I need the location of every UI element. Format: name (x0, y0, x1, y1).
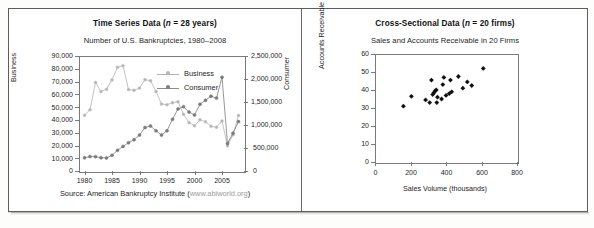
source-text: Source: American Bankruptcy Institute ( (60, 189, 190, 198)
xtick-1985: 1985 (101, 177, 124, 184)
ytick-0: 0 (350, 158, 369, 165)
ytick-20000: 20,000 (31, 142, 73, 149)
time-series-subtitle: Number of U.S. Bankruptcies, 1980–2008 (9, 36, 301, 45)
ytick-80000: 80,000 (31, 65, 73, 72)
y2tick-1500000: 1,500,000 (251, 98, 282, 105)
ytick-30: 30 (350, 104, 369, 111)
source-tail: ) (248, 189, 250, 198)
ytick-30000: 30,000 (31, 129, 73, 136)
ytick-50: 50 (350, 68, 369, 75)
xtick-0: 0 (365, 169, 386, 176)
xtick-2005: 2005 (211, 177, 234, 184)
panel-time-series: Time Series Data (n = 28 years) Number o… (9, 9, 301, 211)
ytick-50000: 50,000 (31, 104, 73, 111)
xtick-200: 200 (401, 169, 422, 176)
title-tail: = 20 firms) (470, 19, 515, 28)
legend-label-business: Business (184, 69, 214, 78)
ytick-90000: 90,000 (31, 52, 73, 59)
xtick-800: 800 (507, 169, 528, 176)
legend-label-consumer: Consumer (184, 83, 218, 92)
xtick-1990: 1990 (128, 177, 151, 184)
ytick-60000: 60,000 (31, 91, 73, 98)
xtick-2000: 2000 (183, 177, 206, 184)
ytick-70000: 70,000 (31, 78, 73, 85)
xtick-1995: 1995 (156, 177, 179, 184)
time-series-title: Time Series Data (n = 28 years) (9, 19, 301, 28)
time-series-source: Source: American Bankruptcy Institute (w… (9, 189, 301, 198)
ytick-40000: 40,000 (31, 116, 73, 123)
y2tick-500000: 500,000 (253, 144, 278, 151)
y2tick-0: 0 (253, 167, 257, 174)
ytick-10000: 10,000 (31, 155, 73, 162)
cross-sectional-data-layer (375, 54, 517, 162)
panel-cross-sectional: Cross-Sectional Data (n = 20 firms) Sale… (301, 9, 588, 211)
y2tick-2000000: 2,000,000 (251, 75, 282, 82)
cross-sectional-title: Cross-Sectional Data (n = 20 firms) (302, 19, 588, 28)
ytick-40: 40 (350, 86, 369, 93)
source-url[interactable]: www.abiworld.org (190, 189, 248, 198)
title-text: Cross-Sectional Data ( (375, 19, 465, 28)
xtick-1980: 1980 (73, 177, 96, 184)
time-series-ylabel-left: Business (10, 43, 18, 91)
ytick-10: 10 (350, 140, 369, 147)
ytick-60: 60 (350, 50, 369, 57)
time-series-ylabel-right: Consumer (283, 51, 291, 95)
cross-sectional-xlabel: Sales Volume (thousands) (302, 184, 588, 193)
figure-page: Time Series Data (n = 28 years) Number o… (0, 0, 594, 228)
xtick-400: 400 (436, 169, 457, 176)
y2tick-2500000: 2,500,000 (251, 52, 282, 59)
cross-sectional-subtitle: Sales and Accounts Receivable in 20 Firm… (302, 36, 588, 45)
xtick-600: 600 (472, 169, 493, 176)
title-text: Time Series Data ( (93, 19, 166, 28)
page-shadow (11, 212, 589, 215)
title-tail: = 28 years) (171, 19, 217, 28)
cross-sectional-ylabel: Accounts Receivable (thousands) (318, 0, 326, 69)
ytick-20: 20 (350, 122, 369, 129)
y2tick-1000000: 1,000,000 (251, 121, 282, 128)
ytick-0: 0 (31, 167, 73, 174)
figure-frame: Time Series Data (n = 28 years) Number o… (8, 8, 588, 212)
